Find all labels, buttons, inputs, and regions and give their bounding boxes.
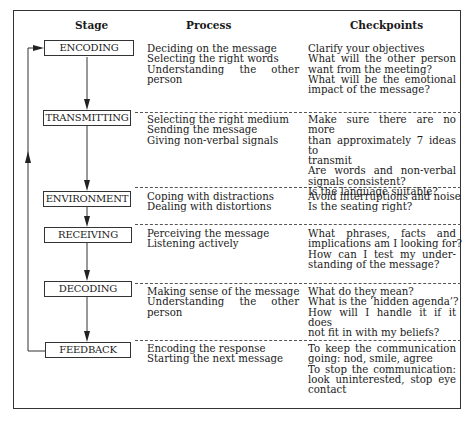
- process-decoding: Making sense of the message Understandin…: [147, 287, 299, 318]
- process-encoding: Deciding on the message Selecting the ri…: [147, 44, 299, 85]
- checkpoints-feedback: To keep the communication going: nod, sm…: [308, 344, 456, 395]
- checkpoints-decoding: What do they mean? What is the ‘hidden a…: [308, 287, 456, 338]
- process-feedback: Encoding the response Starting the next …: [147, 344, 299, 365]
- stage-feedback: FEEDBACK: [45, 342, 131, 358]
- row-divider: [135, 112, 461, 113]
- checkpoints-environment: Avoid interruptions and noise Is the sea…: [308, 192, 456, 213]
- stage-transmitting: TRANSMITTING: [43, 110, 131, 126]
- process-transmitting: Selecting the right medium Sending the m…: [147, 115, 299, 146]
- checkpoints-encoding: Clarify your objectives What will the ot…: [308, 44, 456, 95]
- checkpoints-transmitting: Make sure there are no more than approxi…: [308, 115, 456, 197]
- stage-decoding: DECODING: [44, 281, 132, 297]
- stage-environment: ENVIRONMENT: [43, 191, 131, 207]
- process-receiving: Perceiving the message Listening activel…: [147, 229, 299, 250]
- process-environment: Coping with distractions Dealing with di…: [147, 192, 299, 213]
- stage-encoding: ENCODING: [44, 40, 134, 56]
- checkpoints-receiving: What phrases, facts and implications am …: [308, 229, 456, 270]
- row-divider: [135, 224, 461, 225]
- row-divider: [135, 283, 461, 284]
- stage-receiving: RECEIVING: [44, 227, 132, 243]
- row-divider: [135, 340, 461, 341]
